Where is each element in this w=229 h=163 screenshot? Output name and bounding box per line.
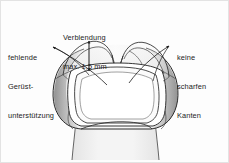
annotation-top-line1: Verblendung <box>63 33 107 43</box>
annotation-verblendung: Verblendung max. 1,5 mm <box>63 14 107 91</box>
annotation-left-line2: Gerüst- <box>8 82 54 92</box>
annotation-right-line1: keine <box>177 53 206 63</box>
annotation-right-line3: Kanten <box>177 111 206 121</box>
annotation-keine-scharfen-kanten: keine scharfen Kanten <box>177 34 206 140</box>
annotation-fehlende-geruestunterstuetzung: fehlende Gerüst- unterstützung <box>8 34 54 140</box>
annotation-top-line2: max. 1,5 mm <box>63 62 107 72</box>
annotation-left-line3: unterstützung <box>8 111 54 121</box>
annotation-left-line1: fehlende <box>8 53 54 63</box>
figure-container: fehlende Gerüst- unterstützung Verblendu… <box>0 0 229 163</box>
annotation-right-line2: scharfen <box>177 82 206 92</box>
